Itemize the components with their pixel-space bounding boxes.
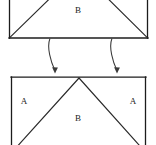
upper-divider-left: [10, 0, 79, 37]
lower-region-label-a-right: A: [130, 96, 137, 106]
upper-region-label-b: B: [75, 5, 81, 15]
shape-decomposition-diagram: B A B A: [0, 0, 156, 145]
lower-region-label-b: B: [75, 113, 81, 123]
left-arrow-shaft: [49, 39, 55, 70]
left-arrow-head: [52, 67, 58, 73]
upper-divider-right: [79, 0, 147, 37]
arrow-group: [49, 39, 120, 73]
right-arrow-head: [114, 67, 120, 73]
lower-rectangle-group: A B A: [11, 77, 146, 145]
right-arrow-shaft: [111, 39, 117, 70]
lower-divider-left: [14, 78, 79, 145]
diagram-container: B A B A: [0, 0, 156, 145]
upper-rectangle-group: B: [9, 0, 148, 38]
lower-divider-right: [79, 78, 144, 145]
lower-region-label-a-left: A: [21, 96, 28, 106]
